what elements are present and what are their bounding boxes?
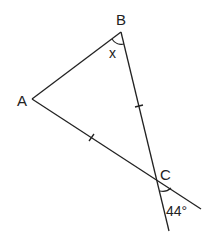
tick-mark-ac (89, 134, 94, 141)
vertex-label-c: C (160, 166, 171, 183)
vertex-label-b: B (116, 11, 126, 28)
angle-arc-b (112, 39, 124, 44)
angle-label-x: x (109, 45, 116, 61)
side-ab (32, 32, 121, 99)
vertex-label-a: A (17, 92, 27, 109)
side-ac-extended (32, 99, 201, 209)
triangle-diagram: B A C x 44° (0, 0, 209, 248)
side-bc-extended (121, 32, 169, 231)
angle-label-44: 44° (166, 203, 187, 219)
